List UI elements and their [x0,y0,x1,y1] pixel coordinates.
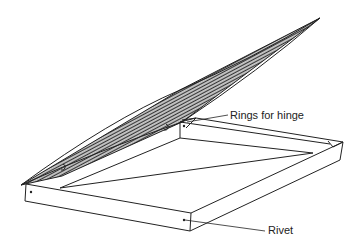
sieve-diagram [0,0,362,242]
rivet-back [183,125,185,127]
rivet-left [30,191,32,193]
label-rivet: Rivet [268,225,293,236]
box-frame [25,118,343,231]
label-rings-for-hinge: Rings for hinge [230,110,304,121]
rivet-front [183,219,185,221]
leader-rivet [185,220,265,231]
mesh-lid [21,18,320,185]
